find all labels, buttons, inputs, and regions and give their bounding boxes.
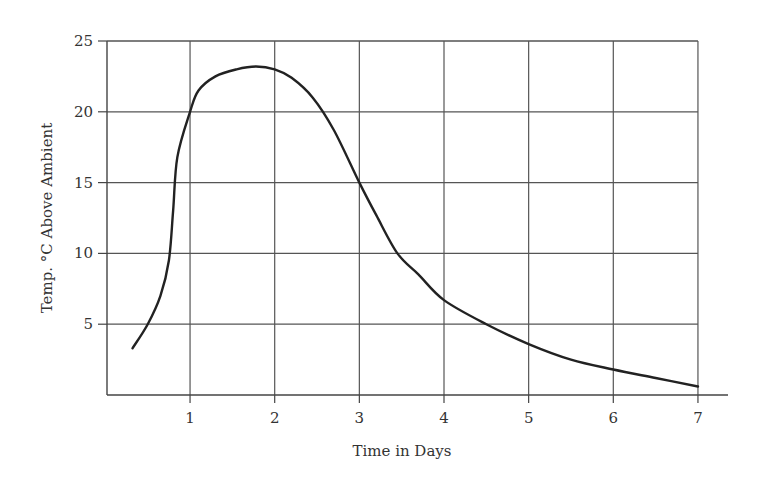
x-tick-label: 1: [185, 409, 195, 427]
y-tick-label: 25: [74, 32, 93, 50]
y-tick-label: 20: [74, 103, 93, 121]
x-tick-label: 4: [439, 409, 449, 427]
x-axis-label: Time in Days: [352, 442, 451, 460]
axes: [98, 41, 728, 403]
x-tick-label: 3: [355, 409, 365, 427]
x-tick-label: 6: [609, 409, 619, 427]
y-tick-label: 10: [74, 244, 93, 262]
x-tick-label: 7: [693, 409, 703, 427]
line-chart: 5101520251234567 Time in Days Temp. °C A…: [0, 0, 764, 484]
y-tick-label: 5: [83, 315, 93, 333]
y-tick-label: 15: [74, 174, 93, 192]
x-tick-label: 2: [270, 409, 280, 427]
x-tick-label: 5: [524, 409, 534, 427]
y-axis-label: Temp. °C Above Ambient: [38, 123, 56, 313]
